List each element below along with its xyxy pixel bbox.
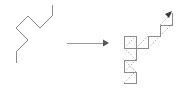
dashed-segment [124,71,136,83]
dashed-segment [124,48,136,60]
output-subdivided-polyline [124,13,172,83]
diagram-svg [0,0,180,91]
dashed-segment [136,36,148,48]
dashed-segment [124,60,136,72]
endpoint-arrow-icon [165,11,172,18]
diagram-canvas [0,0,180,91]
arrow-head-icon [103,40,109,47]
dashed-segment [148,36,160,48]
right-shape-group [124,11,172,83]
dashed-segment [124,60,136,72]
dashed-segment [124,36,136,48]
left-shape-group [16,5,52,63]
dashed-segment [160,24,172,36]
input-zigzag-polyline [16,5,52,63]
transformation-arrow [67,40,109,47]
